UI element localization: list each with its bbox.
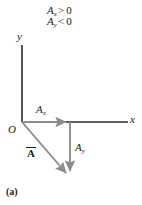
vector-ay-symbol: A <box>75 141 82 153</box>
vector-ax-label: Ax <box>36 104 46 115</box>
vector-ay-subscript: y <box>82 147 85 155</box>
annotation-ay-negative: Ay<0 <box>47 16 73 27</box>
vector-components-figure: Ax>0 Ay<0 y x O Ax Ay A (a) <box>0 0 142 205</box>
annotation-ay-symbol: A <box>47 15 54 27</box>
annotation-ay-relation: < <box>57 15 65 27</box>
figure-caption: (a) <box>6 187 18 197</box>
vector-ay-label: Ay <box>75 142 85 153</box>
annotation-ay-subscript: y <box>54 21 57 29</box>
x-axis-label: x <box>130 114 135 125</box>
y-axis-label: y <box>17 31 22 42</box>
origin-label: O <box>8 124 16 135</box>
vector-a-symbol: A <box>27 147 35 159</box>
annotation-block: Ax>0 Ay<0 <box>47 5 73 27</box>
annotation-ax-subscript: x <box>54 10 57 18</box>
vector-ax-symbol: A <box>36 103 43 115</box>
vector-a-label: A <box>27 147 35 159</box>
vector-ax-subscript: x <box>43 109 46 117</box>
annotation-ay-value: 0 <box>65 15 73 27</box>
